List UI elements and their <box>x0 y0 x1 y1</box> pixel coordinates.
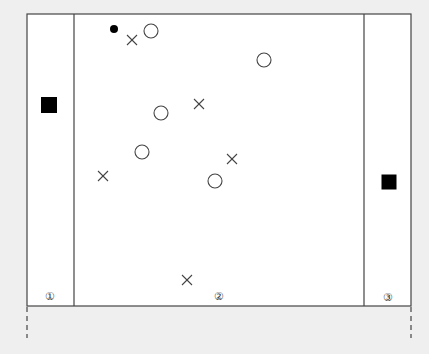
outer-frame <box>27 14 411 306</box>
zone-3-label: ③ <box>383 291 393 304</box>
filled-square-icon <box>41 97 57 113</box>
filled-dot-icon <box>110 25 118 33</box>
zone-2-label: ② <box>214 290 224 303</box>
zone-1-label: ① <box>45 290 55 303</box>
filled-square-icon <box>382 175 397 190</box>
zone-diagram: ①②③ <box>0 0 429 354</box>
